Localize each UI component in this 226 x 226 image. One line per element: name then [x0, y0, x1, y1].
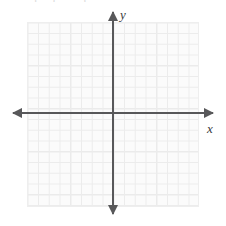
- x-axis-label: x: [207, 122, 213, 135]
- graph-paper-grid: [27, 22, 199, 207]
- coordinate-grid-figure: . . ) , ( . . ) y x: [0, 0, 226, 226]
- y-axis-label: y: [120, 8, 126, 21]
- cropped-title-fragment: . . ) , ( . . ): [14, 0, 174, 2]
